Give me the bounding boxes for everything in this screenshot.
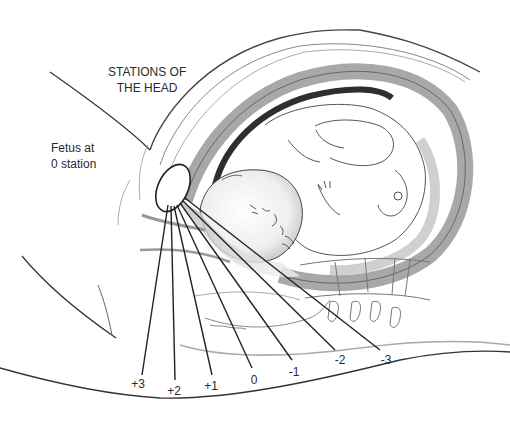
station-label-plus1: +1 [204, 379, 218, 393]
station-label-minus1: -1 [289, 365, 300, 379]
fetal-head [200, 170, 302, 262]
station-label-plus3: +3 [131, 377, 145, 391]
title-line-2: THE HEAD [108, 80, 186, 96]
fetus-label-line-1: Fetus at [51, 140, 96, 156]
stations-of-head-diagram: STATIONS OF THE HEAD Fetus at 0 station … [0, 0, 510, 425]
anatomy-illustration [0, 0, 510, 425]
station-label-0: 0 [251, 373, 258, 387]
title-line-1: STATIONS OF [108, 64, 186, 80]
diagram-title: STATIONS OF THE HEAD [108, 64, 186, 96]
station-label-minus3: -3 [381, 353, 392, 367]
fetus-label-line-2: 0 station [51, 156, 96, 172]
fetus-annotation: Fetus at 0 station [51, 140, 96, 172]
station-label-plus2: +2 [167, 384, 181, 398]
station-label-minus2: -2 [335, 353, 346, 367]
